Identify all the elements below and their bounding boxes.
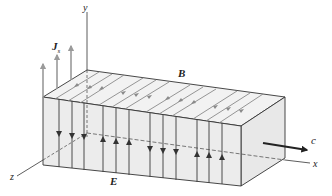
z-axis-label: z <box>10 172 14 182</box>
em-wave-diagram <box>0 0 332 196</box>
surface-current-subscript: s <box>58 47 61 55</box>
surface-current-label: Js <box>52 41 60 55</box>
z-axis <box>17 160 43 176</box>
magnetic-field-label: B <box>178 68 185 79</box>
velocity-label: c <box>311 135 316 146</box>
x-axis-label: x <box>313 159 317 169</box>
x-axis <box>285 160 310 163</box>
electric-field-label: E <box>110 176 117 187</box>
slab-block <box>43 70 285 186</box>
y-axis-label: y <box>83 3 87 13</box>
